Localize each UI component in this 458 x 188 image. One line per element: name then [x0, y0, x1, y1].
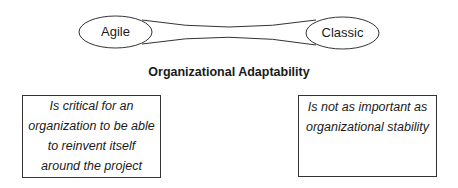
agile-statement-box: Is critical for an organization to be ab…: [22, 95, 161, 178]
classic-statement-text: Is not as important as organizational st…: [306, 100, 429, 134]
agile-label: Agile: [79, 24, 152, 39]
spectrum-connector: [0, 0, 458, 60]
classic-statement-box: Is not as important as organizational st…: [298, 95, 437, 177]
agile-statement-text: Is critical for an organization to be ab…: [28, 99, 154, 173]
classic-label: Classic: [306, 25, 379, 40]
dimension-title: Organizational Adaptability: [0, 65, 458, 79]
